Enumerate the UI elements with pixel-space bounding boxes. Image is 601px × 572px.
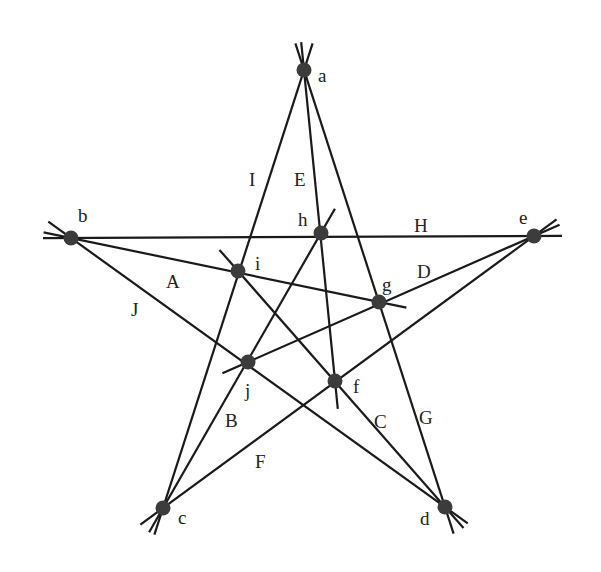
- line-label-I: I: [249, 169, 255, 190]
- point-f: [328, 374, 343, 389]
- point-c: [156, 501, 171, 516]
- point-label-d: d: [420, 508, 430, 529]
- point-label-a: a: [318, 65, 327, 86]
- point-e: [527, 229, 542, 244]
- line-label-H: H: [414, 215, 428, 236]
- diagram-svg: IEGHAJDFBCabcdefghij: [0, 0, 601, 572]
- star-diagram: IEGHAJDFBCabcdefghij: [0, 0, 601, 572]
- point-g: [372, 295, 387, 310]
- line-H: [43, 236, 562, 238]
- point-h: [314, 226, 329, 241]
- line-label-G: G: [419, 407, 433, 428]
- point-a: [297, 63, 312, 78]
- point-d: [438, 500, 453, 515]
- point-j: [241, 355, 256, 370]
- line-B: [149, 209, 335, 533]
- line-label-B: B: [225, 410, 238, 431]
- point-label-h: h: [298, 209, 308, 230]
- points-layer: [64, 63, 542, 516]
- point-label-j: j: [244, 380, 250, 401]
- line-label-A: A: [166, 271, 180, 292]
- line-A: [44, 232, 407, 307]
- line-label-E: E: [294, 169, 306, 190]
- line-label-C: C: [374, 411, 387, 432]
- point-label-b: b: [78, 205, 88, 226]
- point-b: [64, 231, 79, 246]
- line-label-J: J: [131, 299, 138, 320]
- line-label-F: F: [255, 451, 266, 472]
- lines-layer: [43, 42, 562, 535]
- line-C: [220, 250, 464, 528]
- point-i: [231, 264, 246, 279]
- point-label-i: i: [255, 253, 260, 274]
- line-label-D: D: [417, 261, 431, 282]
- point-label-f: f: [353, 376, 360, 397]
- point-label-g: g: [382, 274, 392, 295]
- point-label-c: c: [178, 507, 186, 528]
- labels-layer: IEGHAJDFBCabcdefghij: [78, 65, 527, 529]
- line-D: [222, 225, 559, 374]
- point-label-e: e: [519, 207, 527, 228]
